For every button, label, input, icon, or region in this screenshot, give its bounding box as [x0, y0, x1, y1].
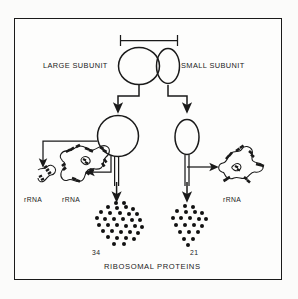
protein-count-right: 21 — [190, 249, 198, 256]
rrna-strand-large-left — [60, 145, 109, 182]
free-small-subunit-shape — [175, 120, 199, 155]
protein-cloud-right — [171, 204, 208, 247]
left-rrna-arrow-large — [90, 156, 111, 172]
protein-count-left: 34 — [92, 249, 100, 256]
scale-bar — [120, 35, 178, 46]
small-subunit-label: SMALL SUBUNIT — [181, 61, 245, 70]
ribosome-diagram-figure: LARGE SUBUNIT SMALL SUBUNIT rRNA rRNA rR… — [0, 0, 298, 299]
figure-caption: RIBOSOMAL PROTEINS — [104, 262, 201, 271]
protein-cloud-left — [95, 201, 144, 246]
rrna-strand-small — [38, 165, 56, 182]
rrna-label-left-large: rRNA — [62, 196, 80, 203]
large-subunit-label: LARGE SUBUNIT — [43, 61, 108, 70]
diagram-canvas — [0, 0, 298, 299]
large-subunit-shape — [119, 48, 160, 85]
rrna-strand-right — [219, 146, 264, 183]
right-protein-arrow — [185, 155, 189, 198]
dissociation-arrows — [118, 85, 187, 108]
left-protein-arrow — [115, 156, 119, 197]
rrna-label-left-small: rRNA — [24, 196, 42, 203]
rrna-label-right: rRNA — [223, 196, 241, 203]
